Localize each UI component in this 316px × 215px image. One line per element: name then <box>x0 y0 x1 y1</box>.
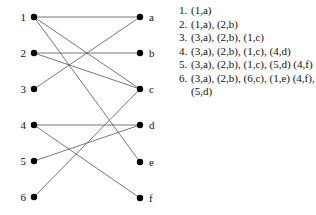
node-label-1: 1 <box>21 11 27 23</box>
node-3 <box>31 86 37 92</box>
step-item: 5.(3,a), (2,b), (1,c), (5,d) (4,f) <box>179 58 316 72</box>
node-label-b: b <box>149 47 155 59</box>
step-item: 6.(3,a), (2,b), (6,c), (1,e) (4,f), (5,d… <box>179 72 316 99</box>
node-label-6: 6 <box>21 191 27 203</box>
node-label-c: c <box>149 83 154 95</box>
node-a <box>137 14 143 20</box>
node-6 <box>31 194 37 200</box>
node-e <box>137 159 143 165</box>
matching-steps-list: 1.(1,a) 2.(1,a), (2,b) 3.(3,a), (2,b), (… <box>179 4 316 99</box>
node-5 <box>31 158 37 164</box>
node-label-a: a <box>149 11 154 23</box>
node-1 <box>31 14 37 20</box>
node-label-4: 4 <box>21 119 27 131</box>
edge-1-e <box>34 17 140 162</box>
node-c <box>137 86 143 92</box>
step-item: 2.(1,a), (2,b) <box>179 18 316 32</box>
edge-2-c <box>34 53 140 89</box>
node-label-2: 2 <box>21 47 27 59</box>
node-b <box>137 50 143 56</box>
edge-4-f <box>34 125 140 198</box>
node-label-e: e <box>149 156 154 168</box>
node-label-f: f <box>149 192 153 204</box>
graph-nodes: 123456abcdef <box>21 11 156 204</box>
step-item: 1.(1,a) <box>179 4 316 18</box>
node-label-3: 3 <box>21 83 27 95</box>
step-item: 4.(3,a), (2,b), (1,c), (4,d) <box>179 45 316 59</box>
node-d <box>137 122 143 128</box>
node-2 <box>31 50 37 56</box>
step-item: 3.(3,a), (2,b), (1,c) <box>179 31 316 45</box>
node-4 <box>31 122 37 128</box>
node-f <box>137 195 143 201</box>
bipartite-graph: 123456abcdef <box>0 0 175 215</box>
graph-edges <box>34 17 140 198</box>
node-label-d: d <box>149 119 155 131</box>
edge-6-c <box>34 89 140 197</box>
node-label-5: 5 <box>21 155 27 167</box>
